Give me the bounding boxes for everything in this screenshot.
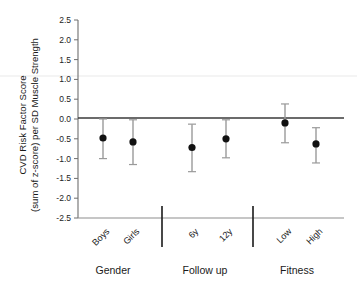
y-tick-label: 2.5 (59, 15, 71, 25)
y-tick-label: -1.5 (56, 173, 71, 183)
data-marker (188, 144, 195, 151)
y-tick-label: 2.0 (59, 35, 71, 45)
y-tick-label: 1.0 (59, 74, 71, 84)
cvd-risk-factor-chart: 2.52.01.51.00.50.0-0.5-1.0-1.5-2.0-2.5 C… (0, 0, 357, 286)
y-tick-label: -2.0 (56, 193, 71, 203)
y-tick-label: 1.5 (59, 55, 71, 65)
chart-svg: 2.52.01.51.00.50.0-0.5-1.0-1.5-2.0-2.5 C… (0, 0, 357, 286)
group-label-gender: Gender (95, 264, 131, 276)
y-tick-label: -2.5 (56, 213, 71, 223)
y-tick-label: 0.5 (59, 94, 71, 104)
data-marker (222, 135, 229, 142)
y-tick-label: -0.5 (56, 134, 71, 144)
data-marker (129, 138, 136, 145)
group-label-follow-up: Follow up (183, 264, 228, 276)
y-axis-title-line1: CVD Risk Factor Score (17, 75, 28, 174)
y-tick-label: -1.0 (56, 154, 71, 164)
data-marker (312, 140, 319, 147)
group-label-fitness: Fitness (280, 264, 314, 276)
plot-background (0, 0, 357, 286)
group-labels: GenderFollow upFitness (95, 264, 313, 276)
data-marker (99, 134, 106, 141)
y-tick-label: 0.0 (59, 114, 71, 124)
y-axis-title-line2: (sum of z-score) per SD Muscle Strength (29, 38, 40, 212)
data-marker (281, 119, 288, 126)
